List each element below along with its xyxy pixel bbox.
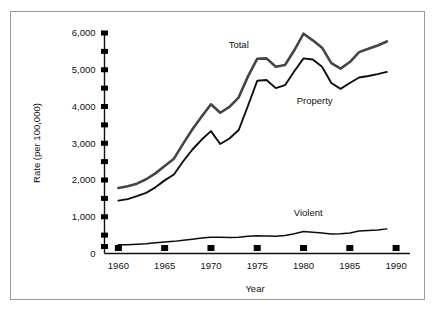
y-tick-marker xyxy=(101,67,108,72)
x-tick-label: 1990 xyxy=(386,260,407,271)
x-tick-marker xyxy=(207,245,214,251)
line-chart: 01,0002,0003,0004,0005,0006,000 19601965… xyxy=(0,0,435,315)
figure-container: 01,0002,0003,0004,0005,0006,000 19601965… xyxy=(0,0,435,315)
x-tick-label: 1960 xyxy=(108,260,129,271)
y-tick-label: 4,000 xyxy=(72,101,96,112)
y-minor-tick-marker xyxy=(101,159,108,164)
y-tick-marker xyxy=(101,31,108,36)
y-tick-label: 3,000 xyxy=(72,138,96,149)
series-label-property: Property xyxy=(297,95,333,106)
x-tick-label: 1975 xyxy=(247,260,268,271)
series-label-total: Total xyxy=(229,39,249,50)
x-tick-label: 1970 xyxy=(200,260,221,271)
y-minor-tick-marker xyxy=(101,122,108,127)
y-tick-label: 6,000 xyxy=(72,27,96,38)
x-tick-marker xyxy=(254,245,261,251)
y-minor-tick-marker xyxy=(101,49,108,54)
x-tick-marker xyxy=(393,245,400,251)
x-axis-tick-labels: 1960196519701975198019851990 xyxy=(108,260,407,271)
x-tick-label: 1965 xyxy=(154,260,175,271)
x-tick-marker xyxy=(161,245,168,251)
series-line-total xyxy=(118,34,386,188)
series-label-violent: Violent xyxy=(294,207,323,218)
y-tick-label: 2,000 xyxy=(72,174,96,185)
x-tick-marker xyxy=(346,245,353,251)
y-tick-label: 5,000 xyxy=(72,64,96,75)
y-minor-tick-marker xyxy=(101,196,108,201)
x-tick-marker xyxy=(300,245,307,251)
y-tick-label: 1,000 xyxy=(72,211,96,222)
y-axis-tick-labels: 01,0002,0003,0004,0005,0006,000 xyxy=(72,27,96,259)
y-minor-tick-marker xyxy=(101,233,108,238)
x-tick-label: 1985 xyxy=(339,260,360,271)
series-line-violent xyxy=(118,229,386,245)
y-tick-marker xyxy=(101,244,108,249)
x-axis-ticks xyxy=(115,245,400,251)
x-axis-title: Year xyxy=(245,283,264,294)
y-tick-marker xyxy=(101,214,108,219)
y-tick-marker xyxy=(101,178,108,183)
x-tick-marker xyxy=(115,245,122,251)
y-axis-title: Rate (per 100,000) xyxy=(31,103,42,183)
x-tick-label: 1980 xyxy=(293,260,314,271)
y-tick-label: 0 xyxy=(90,248,95,259)
y-tick-marker xyxy=(101,141,108,146)
y-minor-tick-marker xyxy=(101,86,108,91)
series-line-property xyxy=(118,58,386,200)
y-tick-marker xyxy=(101,104,108,109)
